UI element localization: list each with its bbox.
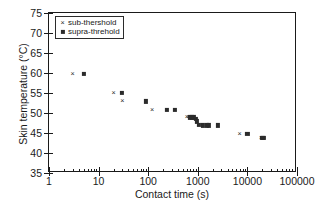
y-tick-mark-inner xyxy=(49,53,53,54)
x-tick-minor xyxy=(240,169,241,172)
y-tick-label: 65 xyxy=(30,47,42,59)
x-tick-minor xyxy=(79,169,80,172)
y-tick-label: 35 xyxy=(30,167,42,179)
y-tick-label: 45 xyxy=(30,127,42,139)
legend-marker xyxy=(60,20,65,25)
x-tick-label: 1 xyxy=(46,175,52,187)
x-tick-minor xyxy=(221,169,222,172)
x-tick-minor xyxy=(172,169,173,172)
y-tick-label: 40 xyxy=(30,147,42,159)
data-point-supra-threshold xyxy=(144,99,148,103)
x-tick-minor xyxy=(292,169,293,172)
data-point-supra-threshold xyxy=(165,108,169,112)
legend-item-label: sub-thershold xyxy=(68,18,116,27)
x-tick-minor xyxy=(128,169,129,172)
y-tick-label: 70 xyxy=(30,27,42,39)
data-point-sub-threshold xyxy=(120,99,125,104)
x-tick-minor xyxy=(122,169,123,172)
x-tick-mark-inner xyxy=(198,167,199,171)
x-tick-minor xyxy=(133,169,134,172)
y-tick-label: 50 xyxy=(30,107,42,119)
x-tick-minor xyxy=(289,169,290,172)
legend-item: sub-thershold xyxy=(58,18,120,27)
y-tick-mark-inner xyxy=(49,93,53,94)
x-tick-minor xyxy=(286,169,287,172)
x-tick-minor xyxy=(262,169,263,172)
y-tick-mark-inner xyxy=(49,33,53,34)
x-tick-mark-inner xyxy=(99,167,100,171)
x-tick-minor xyxy=(84,169,85,172)
x-axis-title: Contact time (s) xyxy=(48,188,296,200)
y-tick-mark-inner xyxy=(49,153,53,154)
legend-cross-icon xyxy=(58,18,67,27)
legend-marker xyxy=(60,29,64,33)
x-tick-label: 10000 xyxy=(233,175,262,187)
y-tick-label: 60 xyxy=(30,67,42,79)
chart-legend: sub-thersholdsupra-threhold xyxy=(55,16,124,39)
chart-figure: Skin temperature (°C) 354045505560657075… xyxy=(0,0,320,209)
x-tick-minor xyxy=(94,169,95,172)
x-tick-minor xyxy=(213,169,214,172)
x-tick-minor xyxy=(163,169,164,172)
data-point-sub-threshold xyxy=(149,107,154,112)
x-tick-minor xyxy=(64,169,65,172)
data-point-supra-threshold xyxy=(261,136,265,140)
x-tick-label: 1000 xyxy=(186,175,209,187)
x-tick-label: 100 xyxy=(139,175,157,187)
x-tick-minor xyxy=(96,169,97,172)
x-tick-minor xyxy=(193,169,194,172)
plot-area: 354045505560657075 110100100010000100000… xyxy=(48,12,296,172)
x-tick-minor xyxy=(243,169,244,172)
x-tick-mark-inner xyxy=(49,167,50,171)
x-tick-minor xyxy=(178,169,179,172)
x-tick-minor xyxy=(91,169,92,172)
y-tick-label: 75 xyxy=(30,7,42,19)
data-point-supra-threshold xyxy=(245,132,249,136)
y-tick-mark-inner xyxy=(49,73,53,74)
x-tick-minor xyxy=(271,169,272,172)
x-tick-minor xyxy=(187,169,188,172)
x-tick-minor xyxy=(88,169,89,172)
x-tick-minor xyxy=(236,169,237,172)
y-axis-title: Skin temperature (°C) xyxy=(17,9,29,179)
x-tick-mark-inner xyxy=(148,167,149,171)
data-point-sub-threshold xyxy=(111,91,116,96)
x-tick-mark-inner xyxy=(247,167,248,171)
y-tick-mark-inner xyxy=(49,13,53,14)
data-point-sub-threshold xyxy=(237,131,242,136)
x-tick-minor xyxy=(282,169,283,172)
legend-item: supra-threhold xyxy=(58,27,120,36)
x-tick-minor xyxy=(114,169,115,172)
legend-item-label: supra-threhold xyxy=(68,27,120,36)
x-tick-minor xyxy=(245,169,246,172)
x-tick-mark-inner xyxy=(297,167,298,171)
data-point-supra-threshold xyxy=(82,72,86,76)
x-tick-minor xyxy=(183,169,184,172)
data-point-supra-threshold xyxy=(173,108,177,112)
x-tick-minor xyxy=(277,169,278,172)
y-tick-mark-inner xyxy=(49,133,53,134)
data-point-supra-threshold xyxy=(120,91,124,95)
x-tick-minor xyxy=(137,169,138,172)
x-tick-label: 10 xyxy=(93,175,105,187)
legend-square-icon xyxy=(58,27,67,36)
x-tick-minor xyxy=(295,169,296,172)
y-tick-label: 55 xyxy=(30,87,42,99)
x-tick-minor xyxy=(143,169,144,172)
x-tick-minor xyxy=(196,169,197,172)
data-point-supra-threshold xyxy=(207,123,211,127)
data-point-sub-threshold xyxy=(70,71,75,76)
data-point-supra-threshold xyxy=(215,123,219,127)
y-tick-mark-inner xyxy=(49,113,53,114)
x-tick-label: 100000 xyxy=(279,175,314,187)
x-tick-minor xyxy=(232,169,233,172)
x-tick-minor xyxy=(73,169,74,172)
x-tick-minor xyxy=(141,169,142,172)
x-tick-minor xyxy=(190,169,191,172)
x-tick-minor xyxy=(228,169,229,172)
x-tick-minor xyxy=(146,169,147,172)
